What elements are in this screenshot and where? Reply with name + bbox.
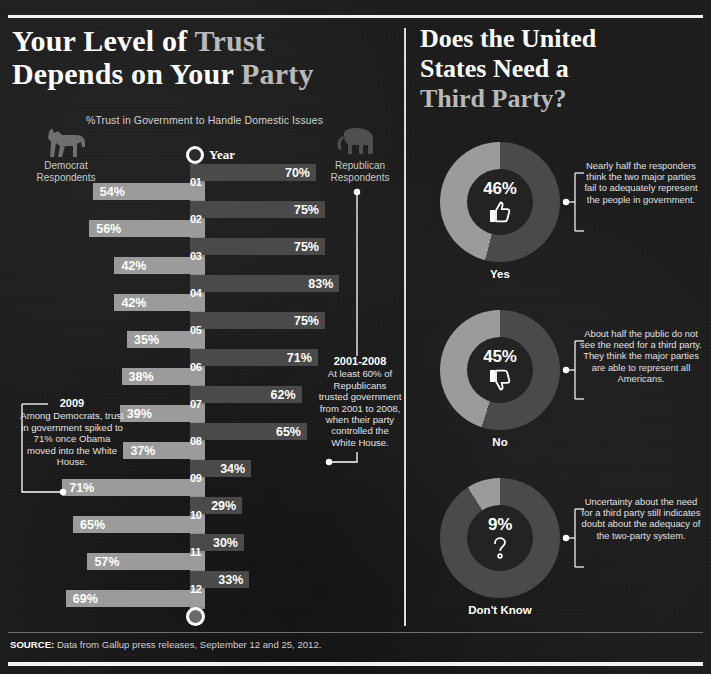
republican-bar-value: 33% [218, 573, 243, 587]
year-tick-label: 09 [190, 472, 206, 484]
donut-label: Don't Know [440, 604, 560, 616]
republican-bar: 65% [190, 423, 307, 440]
donut-label: Yes [440, 268, 560, 280]
callout-2009: 2009 Among Democrats, trust in governmen… [18, 398, 126, 467]
thumbs-up-icon [487, 198, 513, 224]
year-tick-label: 03 [190, 250, 206, 262]
donut-label: No [440, 436, 560, 448]
right-title-line3: Third Party? [420, 84, 567, 113]
year-tick-label: 02 [190, 213, 206, 225]
year-tick-label: 10 [190, 509, 206, 521]
donut-note: Nearly half the responders think the two… [580, 160, 702, 205]
bar-row: 83%42%04 [0, 275, 404, 312]
democrat-bar-value: 42% [121, 259, 146, 273]
bar-row: 75%35%05 [0, 312, 404, 349]
republican-bar: 62% [190, 386, 302, 403]
panel-divider [404, 28, 406, 626]
democrat-bar: 65% [73, 516, 205, 533]
democrat-bar: 56% [89, 220, 205, 237]
democrat-bar-value: 56% [96, 222, 121, 236]
donut-percentage: 9% [488, 516, 512, 534]
republican-bar-value: 75% [294, 314, 319, 328]
republican-bar-value: 70% [285, 166, 310, 180]
infographic-root: Your Level of Trust Depends on Your Part… [0, 0, 711, 674]
donut-ring: 9% [440, 478, 560, 598]
year-tick-label: 01 [190, 176, 206, 188]
year-tick-label: 08 [190, 435, 206, 447]
republican-bar-value: 62% [271, 388, 296, 402]
republican-bar-value: 29% [211, 499, 236, 513]
donut-center: 46% [467, 169, 533, 235]
source-text: Data from Gallup press releases, Septemb… [54, 639, 321, 650]
bar-row: 75%56%02 [0, 201, 404, 238]
thumbs-down-icon [487, 366, 513, 392]
republican-bar-value: 30% [213, 536, 238, 550]
democrat-bar-value: 37% [130, 444, 155, 458]
democrat-bar: 54% [93, 183, 205, 200]
question-mark-icon [487, 534, 513, 560]
donut-ring: 45% [440, 310, 560, 430]
democrat-bar-value: 39% [127, 407, 152, 421]
bar-row: 29%65%10 [0, 497, 404, 534]
callout-2001-2008-heading: 2001-2008 [318, 356, 402, 367]
year-axis-label: Year [209, 147, 235, 163]
donut-note: Uncertainty about the need for a third p… [580, 496, 702, 541]
bar-row: 75%42%03 [0, 238, 404, 275]
right-title-line2: States Need a [420, 54, 569, 83]
right-title-line1: Does the United [420, 24, 596, 53]
bar-row: 70%54%01 [0, 164, 404, 201]
year-tick-label: 07 [190, 398, 206, 410]
source-prefix: SOURCE: [10, 639, 54, 650]
republican-bar-value: 83% [308, 277, 333, 291]
democrat-bar-value: 35% [134, 333, 159, 347]
callout-2001-2008-body: At least 60% of Republicans trusted gove… [319, 368, 402, 447]
democrat-bar-value: 42% [121, 296, 146, 310]
republican-bar-value: 71% [287, 351, 312, 365]
bottom-rule [8, 662, 703, 666]
democrat-bar-value: 69% [73, 592, 98, 606]
year-tick-label: 06 [190, 361, 206, 373]
trust-diverging-bar-chart: Year 70%54%0175%56%0275%42%0383%42%0475%… [0, 0, 404, 632]
republican-bar-value: 75% [294, 240, 319, 254]
republican-bar-value: 65% [276, 425, 301, 439]
republican-bar: 71% [190, 349, 318, 366]
source-note: SOURCE: Data from Gallup press releases,… [10, 639, 321, 650]
republican-bar: 83% [190, 275, 339, 292]
democrat-bar-value: 38% [129, 370, 154, 384]
donut-percentage: 46% [483, 180, 516, 198]
republican-bar-value: 75% [294, 203, 319, 217]
democrat-bar-value: 54% [100, 185, 125, 199]
republican-bar: 75% [190, 312, 325, 329]
republican-bar: 75% [190, 201, 325, 218]
donut-percentage: 45% [483, 348, 516, 366]
donut-center: 45% [467, 337, 533, 403]
republican-bar: 70% [190, 164, 316, 181]
callout-2009-heading: 2009 [18, 398, 126, 409]
democrat-bar: 71% [62, 479, 205, 496]
democrat-bar: 69% [66, 590, 205, 607]
year-tick-label: 04 [190, 287, 206, 299]
year-tick-label: 12 [190, 583, 206, 595]
republican-bar: 75% [190, 238, 325, 255]
year-tick-label: 05 [190, 324, 206, 336]
democrat-bar-value: 71% [69, 481, 94, 495]
democrat-bar-value: 65% [80, 518, 105, 532]
bar-row: 33%69%12 [0, 571, 404, 608]
year-tick-label: 11 [190, 546, 206, 558]
callout-2001-2008: 2001-2008 At least 60% of Republicans tr… [318, 356, 402, 448]
democrat-bar: 57% [87, 553, 205, 570]
donut-center: 9% [467, 505, 533, 571]
bar-row: 30%57%11 [0, 534, 404, 571]
right-panel-title: Does the United States Need a Third Part… [420, 24, 700, 114]
callout-2009-body: Among Democrats, trust in government spi… [20, 410, 123, 467]
donut-note: About half the public do not see the nee… [580, 328, 702, 384]
source-rule [8, 632, 703, 633]
democrat-bar-value: 57% [94, 555, 119, 569]
year-axis-bottom-marker [186, 607, 205, 626]
donut-ring: 46% [440, 142, 560, 262]
republican-bar-value: 34% [220, 462, 245, 476]
year-axis-top-marker [186, 146, 204, 164]
